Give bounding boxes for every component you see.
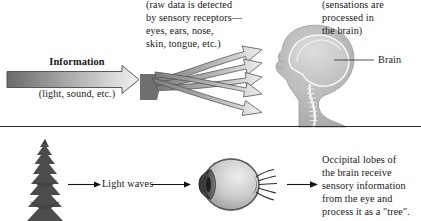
sensation-perception-figure: Perception (raw data is detected by sens… — [0, 0, 421, 221]
eye-illustration — [199, 159, 277, 210]
occipital-lobes-caption: Occipital lobes of the brain receive sen… — [322, 154, 421, 219]
arrow-eye-to-occipital — [287, 181, 318, 187]
arrow-tree-to-lightwaves — [68, 182, 101, 188]
evergreen-tree-illustration — [27, 139, 63, 221]
light-waves-label: Light waves — [102, 178, 162, 191]
